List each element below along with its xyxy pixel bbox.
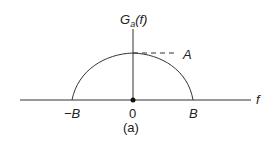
tick-label-b: B	[189, 106, 198, 121]
tick-label-neg-b: −B	[64, 106, 81, 121]
peak-label: A	[182, 47, 192, 62]
figure-caption: (a)	[123, 120, 139, 135]
y-axis-label: Ga(f)	[120, 12, 147, 29]
spectrum-diagram: Ga(f) A f −B 0 B (a)	[0, 0, 275, 145]
tick-label-zero: 0	[129, 106, 136, 121]
x-axis-label: f	[256, 92, 261, 107]
origin-dot	[131, 98, 136, 103]
